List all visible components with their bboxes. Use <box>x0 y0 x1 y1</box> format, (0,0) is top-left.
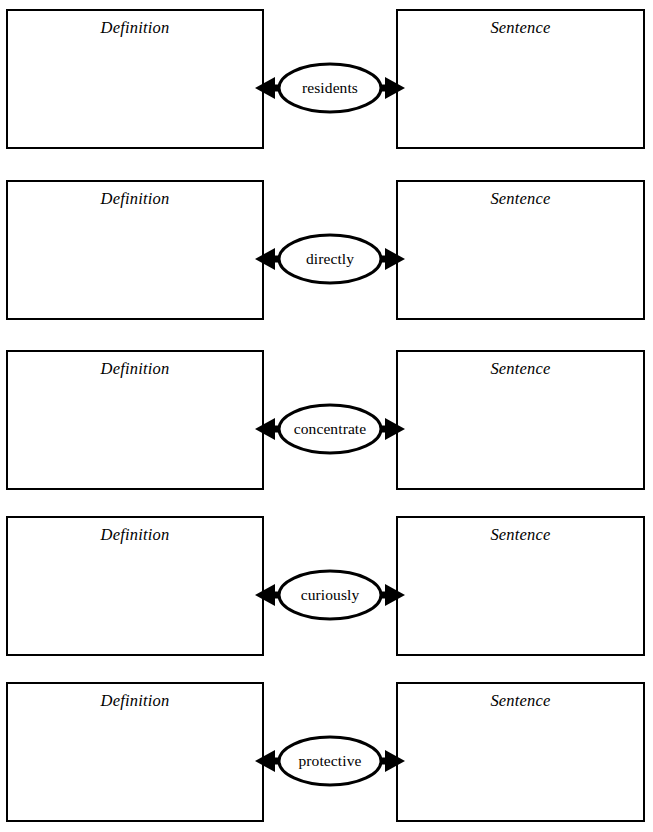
definition-box[interactable]: Definition <box>6 180 264 320</box>
worksheet-row: Definition Sentence residents <box>0 9 653 149</box>
vocabulary-word: directly <box>255 246 405 272</box>
vocabulary-word: protective <box>255 748 405 774</box>
vocabulary-word: curiously <box>255 582 405 608</box>
word-connector: directly <box>255 226 405 292</box>
worksheet-row: Definition Sentence directly <box>0 180 653 320</box>
sentence-box[interactable]: Sentence <box>396 180 645 320</box>
sentence-box[interactable]: Sentence <box>396 682 645 822</box>
definition-label: Definition <box>8 525 262 545</box>
vocabulary-word: residents <box>255 75 405 101</box>
sentence-label: Sentence <box>398 691 643 711</box>
word-connector: protective <box>255 728 405 794</box>
sentence-box[interactable]: Sentence <box>396 516 645 656</box>
definition-label: Definition <box>8 189 262 209</box>
word-connector: curiously <box>255 562 405 628</box>
word-connector: concentrate <box>255 396 405 462</box>
worksheet-row: Definition Sentence curiously <box>0 516 653 656</box>
definition-box[interactable]: Definition <box>6 350 264 490</box>
worksheet-row: Definition Sentence concentrate <box>0 350 653 490</box>
sentence-box[interactable]: Sentence <box>396 9 645 149</box>
definition-label: Definition <box>8 18 262 38</box>
sentence-label: Sentence <box>398 18 643 38</box>
definition-label: Definition <box>8 691 262 711</box>
vocabulary-worksheet: Definition Sentence residents Definition… <box>0 0 653 832</box>
definition-box[interactable]: Definition <box>6 9 264 149</box>
definition-box[interactable]: Definition <box>6 682 264 822</box>
sentence-label: Sentence <box>398 359 643 379</box>
sentence-box[interactable]: Sentence <box>396 350 645 490</box>
worksheet-row: Definition Sentence protective <box>0 682 653 822</box>
sentence-label: Sentence <box>398 525 643 545</box>
word-connector: residents <box>255 55 405 121</box>
vocabulary-word: concentrate <box>255 416 405 442</box>
definition-label: Definition <box>8 359 262 379</box>
header-text-fragment <box>0 0 420 3</box>
definition-box[interactable]: Definition <box>6 516 264 656</box>
sentence-label: Sentence <box>398 189 643 209</box>
